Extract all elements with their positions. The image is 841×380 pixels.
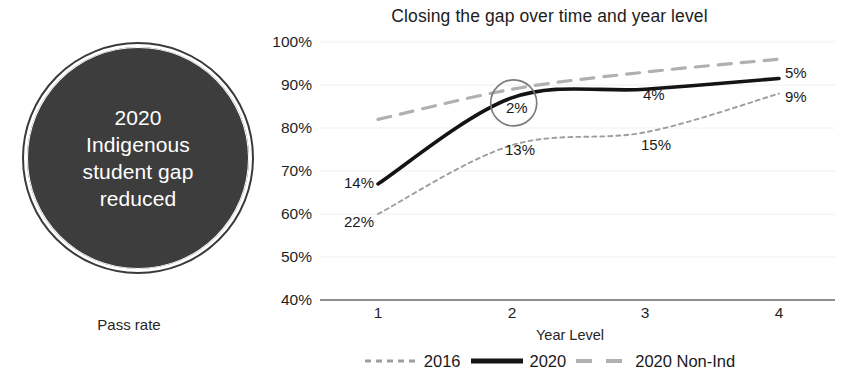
donut-fill: 2020 Indigenous student gap reduced [27,47,249,269]
pass-rate-donut: 2020 Indigenous student gap reduced [22,42,254,274]
data-label-2020-y3: 4% [643,86,665,103]
y-tick-80: 80% [258,119,312,137]
y-tick-100: 100% [258,33,312,51]
pass-rate-callout-panel: 2020 Indigenous student gap reduced Pass… [0,0,258,380]
data-label-2020-y2: 2% [506,99,528,116]
y-tick-50: 50% [258,248,312,266]
data-label-2020-y4: 5% [785,64,807,81]
x-tick-2: 2 [497,304,527,322]
line-chart-panel: Closing the gap over time and year level… [258,0,841,380]
pass-rate-caption: Pass rate [0,316,258,333]
series-line-2016 [378,94,779,214]
x-tick-1: 1 [363,304,393,322]
legend-item-2020-non-ind[interactable]: 2020 Non-Ind [575,353,735,370]
data-label-2016-y3: 15% [641,136,671,153]
legend-item-2020[interactable]: 2020 [470,353,567,370]
y-tick-90: 90% [258,76,312,94]
chart-legend: 2016 2020 2020 Non-Ind [258,353,841,370]
donut-headline: 2020 Indigenous student gap reduced [83,104,194,212]
legend-swatch-dotted-icon [364,355,418,367]
y-tick-40: 40% [258,291,312,309]
x-tick-3: 3 [630,304,660,322]
data-label-2020-y1: 14% [344,174,374,191]
data-label-2016-y2: 13% [505,141,535,158]
legend-swatch-solid-icon [470,355,524,367]
legend-item-2016[interactable]: 2016 [364,353,461,370]
series-line-2020 [378,79,779,184]
chart-series-paths [378,59,779,214]
data-label-2016-y1: 22% [344,213,374,230]
x-axis-title: Year Level [320,327,820,343]
legend-swatch-dashed-icon [575,355,629,367]
y-tick-60: 60% [258,205,312,223]
legend-label-2020-non-ind: 2020 Non-Ind [635,353,735,370]
legend-label-2020: 2020 [530,353,567,370]
y-tick-70: 70% [258,162,312,180]
data-label-2016-y4: 9% [785,88,807,105]
legend-label-2016: 2016 [424,353,461,370]
x-tick-4: 4 [764,304,794,322]
